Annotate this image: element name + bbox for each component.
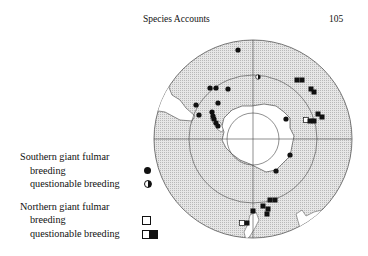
legend-label: breeding (30, 214, 66, 225)
legend-southern-questionable: questionable breeding (20, 177, 120, 191)
legend-label: breeding (30, 165, 66, 176)
northern-breeding-filled-marker (261, 204, 266, 209)
southern-breeding-marker (225, 86, 230, 91)
legend-northern-group: Northern giant fulmar breeding questiona… (20, 200, 120, 241)
northern-breeding-filled-marker (265, 212, 270, 217)
southern-breeding-marker (273, 168, 278, 173)
northern-breeding-filled-marker (320, 115, 325, 120)
northern-breeding-filled-marker (266, 207, 271, 212)
northern-breeding-filled-marker (312, 119, 317, 124)
southern-breeding-marker (215, 100, 220, 105)
open-square-icon (142, 216, 151, 225)
northern-breeding-filled-marker (268, 198, 273, 203)
half-filled-circle-icon (144, 180, 152, 188)
northern-breeding-filled-marker (245, 221, 250, 226)
legend-southern-group: Southern giant fulmar breeding questiona… (20, 150, 120, 191)
northern-breeding-filled-marker (300, 78, 305, 83)
legend-northern-breeding: breeding (20, 213, 120, 227)
legend-label: questionable breeding (30, 178, 120, 189)
legend-northern-questionable: questionable breeding (20, 227, 120, 241)
southern-breeding-marker (215, 123, 220, 128)
map-legend: Southern giant fulmar breeding questiona… (20, 150, 120, 249)
southern-breeding-marker (235, 47, 240, 52)
filled-square-icon (150, 230, 158, 239)
southern-questionable-marker (256, 75, 261, 80)
open-and-filled-square-icon (142, 230, 158, 237)
filled-circle-icon (144, 167, 151, 174)
legend-label: questionable breeding (30, 228, 120, 239)
legend-northern-title: Northern giant fulmar (20, 200, 120, 214)
southern-breeding-marker (287, 152, 292, 157)
southern-breeding-marker (193, 102, 198, 107)
open-square-icon (142, 230, 150, 239)
northern-breeding-open-marker (240, 221, 245, 226)
southern-breeding-marker (196, 112, 201, 117)
southern-breeding-marker (207, 85, 212, 90)
legend-southern-title: Southern giant fulmar (20, 150, 120, 164)
legend-southern-breeding: breeding (20, 164, 120, 178)
northern-breeding-filled-marker (312, 90, 317, 95)
northern-breeding-filled-marker (251, 209, 256, 214)
northern-breeding-filled-marker (295, 78, 300, 83)
southern-breeding-marker (213, 85, 218, 90)
southern-breeding-marker (283, 116, 288, 121)
northern-breeding-filled-marker (273, 198, 278, 203)
